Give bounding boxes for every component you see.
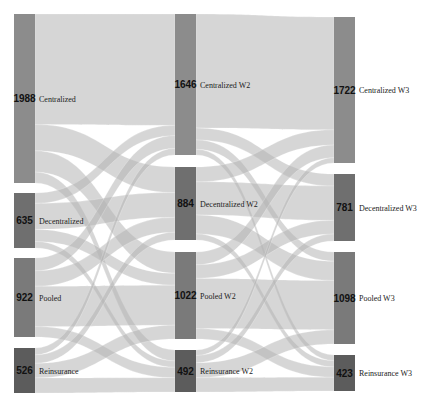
node-label-P2: Pooled W2: [200, 292, 236, 301]
node-label-R1: Reinsurance: [39, 367, 79, 376]
flow-link-C1-C2: [35, 14, 175, 125]
flow-link-C2-C3: [196, 14, 334, 130]
node-label-P1: Pooled: [39, 294, 61, 303]
flow-link-R2-R3: [196, 377, 334, 392]
node-value-D3: 781: [336, 202, 353, 213]
sankey-diagram: 1988Centralized635Decentralized922Pooled…: [0, 0, 424, 405]
node-value-R2: 492: [177, 366, 194, 377]
node-label-D2: Decentralized W2: [200, 200, 258, 209]
node-label-D1: Decentralized: [39, 217, 83, 226]
node-value-P1: 922: [16, 292, 33, 303]
node-value-C1: 1988: [13, 93, 36, 104]
node-value-P3: 1098: [333, 293, 356, 304]
node-label-R3: Reinsurance W3: [359, 369, 412, 378]
node-label-D3: Decentralized W3: [359, 204, 417, 213]
node-value-D1: 635: [16, 215, 33, 226]
node-value-D2: 884: [177, 198, 194, 209]
node-label-R2: Reinsurance W2: [200, 367, 253, 376]
node-label-P3: Pooled W3: [359, 294, 395, 303]
node-value-C2: 1646: [174, 79, 197, 90]
node-label-C3: Centralized W3: [359, 86, 409, 95]
node-value-P2: 1022: [174, 290, 197, 301]
flow-link-R1-R2: [35, 378, 175, 393]
node-value-R3: 423: [336, 368, 353, 379]
node-label-C2: Centralized W2: [200, 81, 250, 90]
flow-link-P2-P3: [196, 278, 334, 330]
node-value-C3: 1722: [333, 85, 356, 96]
flow-link-P1-P2: [35, 285, 175, 326]
node-value-R1: 526: [16, 365, 33, 376]
node-label-C1: Centralized: [39, 95, 76, 104]
